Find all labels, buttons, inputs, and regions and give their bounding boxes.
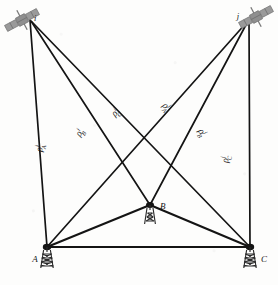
satellite-baseline-diagram: i j A B: [0, 0, 278, 285]
diagram-canvas: i j A B: [0, 0, 278, 285]
antenna-tower-icon: [145, 202, 156, 224]
satellite-icon: [235, 0, 277, 35]
svg-text:ρiA: ρiA: [32, 144, 47, 154]
range-label-rho-j-C: ρjC: [218, 154, 233, 164]
svg-text:ρjB: ρjB: [194, 125, 210, 139]
range-label-rho-i-A: ρiA: [32, 144, 47, 154]
svg-text:ρjC: ρjC: [218, 154, 233, 164]
svg-text:ρiC: ρiC: [107, 105, 123, 121]
range-label-rho-i-C: ρiC: [107, 105, 123, 121]
station-a-label: A: [31, 254, 38, 264]
svg-text:ρiB: ρiB: [71, 126, 87, 140]
range-label-rho-j-B: ρjB: [194, 125, 210, 139]
satellite-j-label: j: [236, 11, 240, 21]
baseline-a-b: [47, 205, 150, 247]
station-c-label: C: [261, 254, 268, 264]
ray-rho-i-A: [30, 20, 47, 247]
station-b-label: B: [160, 201, 166, 211]
ray-rho-j-B: [150, 21, 248, 205]
baseline-group: [47, 205, 250, 247]
ray-rho-i-B: [31, 21, 150, 205]
ray-rho-j-C: [249, 20, 250, 247]
range-label-rho-i-B: ρiB: [71, 126, 87, 140]
satellite-icon: [1, 2, 43, 38]
rho-subscript: A: [40, 145, 47, 151]
rho-subscript: C: [226, 155, 233, 160]
baseline-b-c: [150, 205, 250, 247]
ray-group-sat-i: [30, 20, 250, 247]
